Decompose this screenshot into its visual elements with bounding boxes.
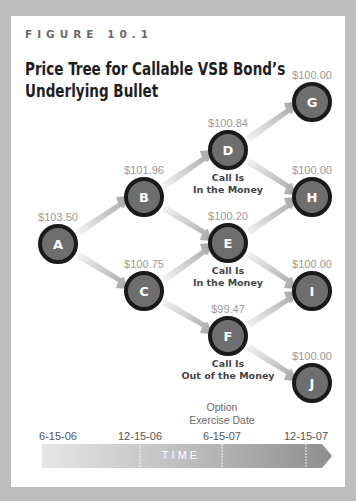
option-exercise-date-label: Option Exercise Date xyxy=(189,401,254,427)
svg-text:F: F xyxy=(224,329,233,344)
price-a: $103.50 xyxy=(38,211,78,223)
date-1: 6-15-06 xyxy=(39,430,77,442)
arrows xyxy=(76,102,296,381)
svg-text:H: H xyxy=(307,190,318,205)
node-a: A xyxy=(40,226,76,262)
node-b: B xyxy=(126,179,162,215)
time-label: TIME xyxy=(162,449,200,461)
svg-text:J: J xyxy=(309,376,315,391)
note-f: Call Is Out of the Money xyxy=(181,358,274,382)
node-j: J xyxy=(294,365,330,401)
node-g: G xyxy=(294,84,330,120)
node-f: F xyxy=(210,318,246,354)
price-h: $100.00 xyxy=(292,164,332,176)
price-c: $100.75 xyxy=(124,258,164,270)
svg-text:A: A xyxy=(53,237,63,252)
date-2: 12-15-06 xyxy=(118,430,162,442)
svg-text:C: C xyxy=(139,284,149,299)
price-f: $99.47 xyxy=(211,303,245,315)
price-i: $100.00 xyxy=(292,258,332,270)
arrow-f-i xyxy=(246,291,296,328)
node-i: I xyxy=(294,273,330,309)
date-3: 6-15-07 xyxy=(203,430,241,442)
date-4: 12-15-07 xyxy=(284,430,328,442)
node-c: C xyxy=(126,273,162,309)
nodes: A B C D E F G H I J xyxy=(40,84,330,401)
arrow-e-h xyxy=(246,197,296,235)
svg-text:E: E xyxy=(224,236,233,251)
svg-text:D: D xyxy=(223,143,234,158)
note-e: Call Is In the Money xyxy=(193,265,263,289)
node-e: E xyxy=(210,225,246,261)
price-e: $100.20 xyxy=(208,210,248,222)
svg-text:I: I xyxy=(310,284,315,299)
arrow-b-e xyxy=(162,205,212,241)
price-g: $100.00 xyxy=(292,69,332,81)
arrow-c-f xyxy=(162,299,212,334)
note-d: Call Is In the Money xyxy=(193,172,263,196)
node-d: D xyxy=(210,132,246,168)
svg-text:B: B xyxy=(139,190,149,205)
price-b: $101.96 xyxy=(124,164,164,176)
price-j: $100.00 xyxy=(292,350,332,362)
arrow-d-g xyxy=(246,102,296,142)
price-d: $100.84 xyxy=(208,117,248,129)
svg-text:G: G xyxy=(307,95,318,110)
arrow-a-c xyxy=(76,252,128,289)
node-h: H xyxy=(294,179,330,215)
arrow-a-b xyxy=(76,196,128,236)
